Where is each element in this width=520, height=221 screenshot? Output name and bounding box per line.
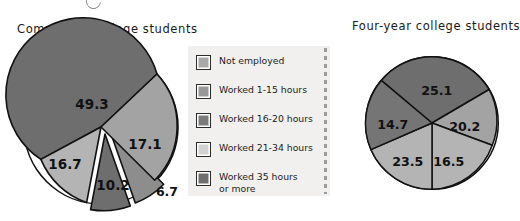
legend-items: Not employed Worked 1-15 hours Worked 16…: [196, 52, 322, 202]
legend-label-worked-16-20: Worked 16-20 hours: [219, 110, 313, 125]
pie-label-left-5: 16.7: [48, 156, 81, 172]
pie-label-left-1: 49.3: [75, 96, 108, 112]
chart-title-four-year-college: Four-year college students: [352, 19, 520, 33]
pie-label-right-5: 14.7: [377, 117, 408, 132]
legend-panel: Not employed Worked 1-15 hours Worked 16…: [188, 46, 330, 196]
pie-chart-four-year-college: 25.1 20.2 16.5 23.5 14.7: [362, 48, 502, 198]
legend-item-worked-1-15[interactable]: Worked 1-15 hours: [196, 81, 322, 110]
legend-swatch-worked-1-15: [196, 84, 211, 99]
legend-item-not-employed[interactable]: Not employed: [196, 52, 322, 81]
pie-label-right-3: 16.5: [433, 154, 464, 169]
legend-swatch-worked-16-20: [196, 113, 211, 128]
legend-swatch-worked-35-plus: [196, 171, 211, 186]
pie-label-right-2: 20.2: [449, 119, 480, 134]
legend-item-worked-16-20[interactable]: Worked 16-20 hours: [196, 110, 322, 139]
pie-svg-left: 49.3 17.1 6.7 10.2 16.7: [20, 46, 182, 208]
legend-swatch-worked-21-34: [196, 142, 211, 157]
pie-label-right-4: 23.5: [392, 154, 423, 169]
legend-label-worked-35-plus: Worked 35 hours or more: [219, 168, 298, 194]
legend-item-worked-21-34[interactable]: Worked 21-34 hours: [196, 139, 322, 168]
pie-label-left-3: 6.7: [156, 184, 178, 199]
legend-label-worked-1-15: Worked 1-15 hours: [219, 81, 307, 96]
legend-torn-edge-icon: [324, 48, 327, 194]
pie-svg-right: 25.1 20.2 16.5 23.5 14.7: [362, 48, 502, 198]
legend-label-not-employed: Not employed: [219, 52, 284, 67]
pie-label-left-4: 10.2: [96, 177, 129, 193]
pie-chart-community-college: 49.3 17.1 6.7 10.2 16.7: [20, 46, 182, 208]
legend-swatch-not-employed: [196, 55, 211, 70]
pie-label-right-1: 25.1: [421, 83, 452, 98]
legend-item-worked-35-plus[interactable]: Worked 35 hours or more: [196, 168, 322, 202]
legend-label-worked-21-34: Worked 21-34 hours: [219, 139, 313, 154]
stray-arc-icon: [83, 0, 104, 12]
pie-label-left-2: 17.1: [128, 136, 161, 152]
